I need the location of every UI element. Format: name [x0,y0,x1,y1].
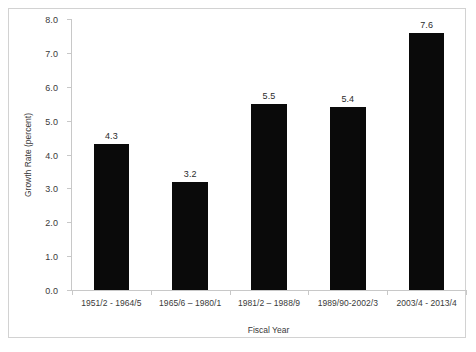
x-axis-tick [230,290,231,295]
bar: 5.4 [330,107,365,290]
x-axis-title-label: Fiscal Year [248,325,290,335]
y-axis-tick-label: 7.0 [45,49,58,59]
bar-value-label: 7.6 [420,20,433,30]
bar-value-label: 3.2 [184,169,197,179]
bar: 3.2 [172,182,207,290]
y-axis-tick: 1.0 [67,256,72,257]
y-axis-tick-label: 4.0 [45,151,58,161]
bar: 4.3 [94,144,129,290]
bar-value-label: 4.3 [105,131,118,141]
y-axis-tick-label: 0.0 [45,286,58,296]
x-axis-category-label: 1989/90-2002/3 [318,298,378,308]
chart-frame: Growth Rate (percent) 0.01.02.03.04.05.0… [8,8,466,338]
x-axis-tick [466,290,467,295]
y-axis-tick-label: 1.0 [45,252,58,262]
y-axis-tick-label: 3.0 [45,184,58,194]
y-axis-tick: 7.0 [67,53,72,54]
plot-area: 0.01.02.03.04.05.06.07.08.0 4.33.25.55.4… [71,19,466,291]
bar: 7.6 [409,33,444,290]
x-axis-category-label: 1965/6 – 1980/1 [159,298,221,308]
x-axis-category-label: 2003/4 - 2013/4 [396,298,456,308]
x-axis-category-label: 1951/2 - 1964/5 [81,298,141,308]
y-axis-tick: 8.0 [67,19,72,20]
y-axis-tick-label: 5.0 [45,117,58,127]
y-axis-tick: 4.0 [67,155,72,156]
y-axis-tick: 5.0 [67,121,72,122]
y-axis-tick: 3.0 [67,188,72,189]
y-axis-tick-label: 2.0 [45,218,58,228]
y-axis-title-label: Growth Rate (percent) [23,113,33,197]
y-axis-tick-label: 8.0 [45,15,58,25]
y-axis-tick: 6.0 [67,87,72,88]
bar-value-label: 5.4 [341,94,354,104]
x-axis-tick [72,290,73,295]
x-axis-category-label: 1981/2 – 1988/9 [238,298,300,308]
y-axis-tick: 2.0 [67,222,72,223]
bar-value-label: 5.5 [263,91,276,101]
y-axis-title: Growth Rate (percent) [21,19,35,291]
y-axis-tick-label: 6.0 [45,83,58,93]
bar: 5.5 [251,104,286,290]
x-axis-title: Fiscal Year [71,325,466,335]
x-axis-tick [308,290,309,295]
x-axis-tick [387,290,388,295]
x-axis-tick [151,290,152,295]
